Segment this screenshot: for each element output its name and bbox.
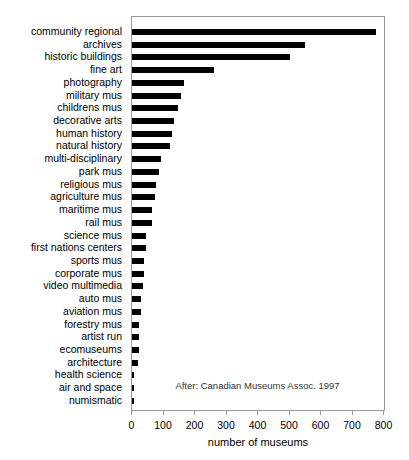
x-tick-mark xyxy=(257,411,258,415)
bar xyxy=(132,105,178,111)
category-label: agriculture mus xyxy=(0,190,122,202)
category-label: childrens mus xyxy=(0,101,122,113)
bar xyxy=(132,80,184,86)
bar xyxy=(132,258,144,264)
category-label: aviation mus xyxy=(0,305,122,317)
x-tick-label: 600 xyxy=(304,419,338,431)
category-label: numismatic xyxy=(0,394,122,406)
x-tick-mark xyxy=(131,411,132,415)
x-tick-label: 100 xyxy=(146,419,180,431)
bar xyxy=(132,29,376,35)
bar xyxy=(132,118,174,124)
x-tick-label: 400 xyxy=(241,419,275,431)
category-label: sports mus xyxy=(0,254,122,266)
bar xyxy=(132,207,152,213)
category-label: health science xyxy=(0,368,122,380)
x-tick-label: 200 xyxy=(178,419,212,431)
x-tick-mark xyxy=(163,411,164,415)
bar xyxy=(132,67,214,73)
bar xyxy=(132,194,155,200)
bar xyxy=(132,283,143,289)
category-label: first nations centers xyxy=(0,241,122,253)
bar xyxy=(132,296,141,302)
x-tick-mark xyxy=(226,411,227,415)
category-label: photography xyxy=(0,76,122,88)
bar xyxy=(132,360,138,366)
x-tick-label: 800 xyxy=(367,419,401,431)
category-label: military mus xyxy=(0,89,122,101)
bar xyxy=(132,233,146,239)
category-label: maritime mus xyxy=(0,203,122,215)
bar xyxy=(132,398,134,404)
category-label: forestry mus xyxy=(0,318,122,330)
x-tick-mark xyxy=(352,411,353,415)
category-axis: community regionalarchiveshistoric build… xyxy=(0,0,127,460)
x-tick-mark xyxy=(194,411,195,415)
bar xyxy=(132,245,146,251)
category-label: auto mus xyxy=(0,292,122,304)
bar xyxy=(132,309,141,315)
bar xyxy=(132,143,170,149)
bar xyxy=(132,54,290,60)
category-label: multi-disciplinary xyxy=(0,152,122,164)
category-label: decorative arts xyxy=(0,114,122,126)
x-tick-mark xyxy=(383,411,384,415)
category-label: fine art xyxy=(0,63,122,75)
category-label: human history xyxy=(0,127,122,139)
x-axis-title: number of museums xyxy=(131,436,385,448)
category-label: artist run xyxy=(0,330,122,342)
bar xyxy=(132,182,156,188)
x-tick-mark xyxy=(289,411,290,415)
category-label: video multimedia xyxy=(0,279,122,291)
bar xyxy=(132,385,134,391)
category-label: architecture xyxy=(0,356,122,368)
category-label: religious mus xyxy=(0,178,122,190)
bar xyxy=(132,322,139,328)
bar xyxy=(132,169,159,175)
x-tick-label: 300 xyxy=(209,419,243,431)
bar-chart: community regionalarchiveshistoric build… xyxy=(0,0,409,460)
x-tick-mark xyxy=(320,411,321,415)
category-label: science mus xyxy=(0,229,122,241)
category-label: air and space xyxy=(0,381,122,393)
category-label: natural history xyxy=(0,139,122,151)
bars-layer xyxy=(132,17,384,410)
bar xyxy=(132,131,172,137)
category-label: ecomuseums xyxy=(0,343,122,355)
category-label: archives xyxy=(0,38,122,50)
bar xyxy=(132,271,144,277)
x-tick-label: 700 xyxy=(335,419,369,431)
bar xyxy=(132,334,139,340)
category-label: historic buildings xyxy=(0,50,122,62)
bar xyxy=(132,93,181,99)
x-tick-label: 500 xyxy=(272,419,306,431)
category-label: community regional xyxy=(0,25,122,37)
plot-area xyxy=(131,16,385,411)
bar xyxy=(132,156,161,162)
x-tick-label: 0 xyxy=(115,419,149,431)
source-annotation: After: Canadian Museums Assoc. 1997 xyxy=(175,380,340,391)
category-label: park mus xyxy=(0,165,122,177)
bar xyxy=(132,347,139,353)
bar xyxy=(132,42,305,48)
category-label: rail mus xyxy=(0,216,122,228)
bar xyxy=(132,220,152,226)
bar xyxy=(132,372,134,378)
category-label: corporate mus xyxy=(0,267,122,279)
